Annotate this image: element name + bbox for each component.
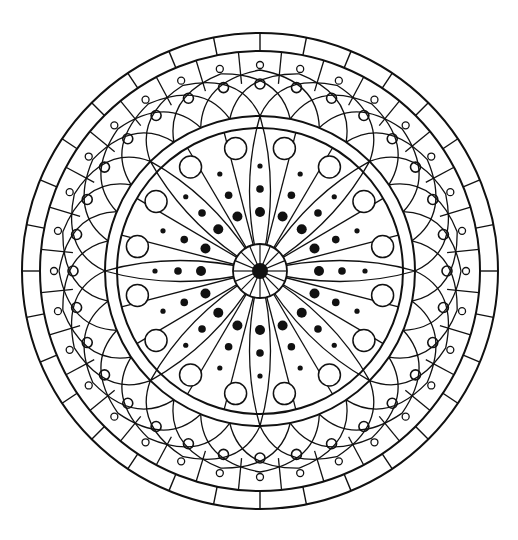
big-ring <box>353 191 375 213</box>
ray-dot <box>232 211 242 221</box>
mandala-canvas <box>0 0 518 540</box>
ray-dot <box>183 343 188 348</box>
big-ring <box>318 364 340 386</box>
outer-band-divider <box>92 103 105 116</box>
arch-band-divider <box>41 249 73 252</box>
ray-dot <box>332 236 340 244</box>
ray-dot <box>196 266 206 276</box>
ray-dot <box>278 211 288 221</box>
ray-dot <box>256 185 264 193</box>
arch-band-divider <box>379 416 399 441</box>
ray-dot <box>257 373 262 378</box>
outer-band-divider <box>27 314 45 318</box>
arch-tip-small-ring <box>402 122 409 129</box>
arch-tip-small-ring <box>54 227 61 234</box>
arch-tip-small-ring <box>111 122 118 129</box>
ray-dot <box>297 224 307 234</box>
ray-dot <box>198 209 206 217</box>
big-ring <box>318 156 340 178</box>
outer-band-divider <box>416 427 429 440</box>
outer-band-divider <box>169 51 176 68</box>
ray-dot <box>332 299 340 307</box>
arch-tip-small-ring <box>85 153 92 160</box>
ray-dot <box>200 243 210 253</box>
arch-tip-small-ring <box>428 153 435 160</box>
arch-band-divider <box>120 416 140 441</box>
outer-band-divider <box>416 103 429 116</box>
arch-tip-small-ring <box>402 413 409 420</box>
arch-tip-small-ring <box>257 474 264 481</box>
outer-band-divider <box>169 474 176 491</box>
arch-band-divider <box>90 131 115 151</box>
big-ring <box>225 137 247 159</box>
ray-dot <box>255 207 265 217</box>
arch-band-divider <box>379 101 399 126</box>
arch-band-divider <box>41 289 73 292</box>
arch-band-divider <box>90 390 115 410</box>
arch-tip-small-ring <box>459 227 466 234</box>
arch-tip-small-ring <box>66 189 73 196</box>
outer-band-divider <box>303 487 307 505</box>
arch-band-divider <box>238 52 241 84</box>
outer-band-divider <box>344 51 351 68</box>
big-ring <box>372 236 394 258</box>
center-medallion <box>233 244 287 298</box>
arch-tip-small-ring <box>447 346 454 353</box>
big-ring <box>145 191 167 213</box>
outer-band-divider <box>92 427 105 440</box>
big-ring <box>372 284 394 306</box>
ray-dot <box>354 309 359 314</box>
outer-band-divider <box>303 38 307 56</box>
outer-band-divider <box>463 355 480 362</box>
ray-dot <box>310 289 320 299</box>
ray-dot <box>278 321 288 331</box>
big-ring <box>353 329 375 351</box>
ray-dot <box>213 224 223 234</box>
arch-tip-small-ring <box>257 62 264 69</box>
ray-dot <box>338 267 346 275</box>
outer-band-divider <box>214 38 218 56</box>
ray-dot <box>217 171 222 176</box>
outer-band-divider <box>476 314 494 318</box>
ray-dot <box>362 268 367 273</box>
outer-band-divider <box>62 393 77 403</box>
ray-dot <box>314 325 322 333</box>
outer-band-divider <box>40 355 57 362</box>
ray-dot <box>232 321 242 331</box>
ray-dot <box>288 191 296 199</box>
big-ring <box>273 137 295 159</box>
ray-dot <box>152 268 157 273</box>
outer-band-divider <box>40 180 57 187</box>
big-ring <box>126 284 148 306</box>
ray-dot <box>314 266 324 276</box>
arch-tip-small-ring <box>51 268 58 275</box>
ray-dot <box>354 228 359 233</box>
big-ring <box>145 329 167 351</box>
arch-band-divider <box>278 458 281 490</box>
arch-tip-small-ring <box>66 346 73 353</box>
arch-tip-small-ring <box>335 77 342 84</box>
mandala-drawing <box>0 0 518 540</box>
arch-tip-small-ring <box>111 413 118 420</box>
arch-band-divider <box>405 131 430 151</box>
outer-band-divider <box>214 487 218 505</box>
ray-dot <box>183 194 188 199</box>
big-ring <box>180 364 202 386</box>
arch-tip-small-ring <box>54 308 61 315</box>
arch-tip-small-ring <box>447 189 454 196</box>
ray-dot <box>298 365 303 370</box>
arch-tip-small-ring <box>216 470 223 477</box>
outer-band-divider <box>463 180 480 187</box>
ray-dot <box>314 209 322 217</box>
ray-dot <box>257 163 262 168</box>
ray-dot <box>288 343 296 351</box>
outer-band-divider <box>443 393 458 403</box>
ray-dot <box>160 228 165 233</box>
arch-band-divider <box>278 52 281 84</box>
ray-dot <box>160 309 165 314</box>
ray-dot <box>256 349 264 357</box>
big-ring <box>126 236 148 258</box>
ray-dot <box>217 365 222 370</box>
arch-band-divider <box>238 458 241 490</box>
arch-tip-small-ring <box>178 77 185 84</box>
